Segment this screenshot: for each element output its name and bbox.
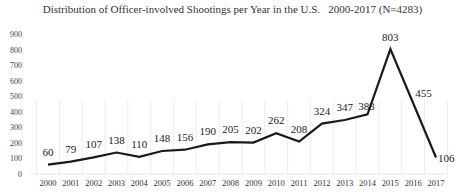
x-tick-label: 2005 (154, 178, 171, 188)
data-label: 383 (358, 100, 375, 112)
data-label: 347 (336, 101, 353, 113)
x-tick-label: 2012 (313, 178, 330, 188)
line-chart: 0100200300400500600700800900200020012002… (0, 0, 465, 192)
x-tick-label: 2017 (428, 178, 445, 188)
data-label: 455 (415, 87, 432, 99)
data-label: 60 (43, 146, 55, 158)
data-label: 110 (131, 138, 148, 150)
data-label: 803 (382, 31, 399, 43)
data-label: 107 (85, 138, 102, 150)
x-tick-label: 2013 (336, 178, 353, 188)
data-label: 148 (154, 132, 171, 144)
data-label: 156 (177, 131, 194, 143)
x-tick-label: 2014 (359, 178, 377, 188)
x-tick-label: 2009 (245, 178, 262, 188)
data-label: 205 (222, 123, 239, 135)
x-tick-label: 2006 (176, 178, 193, 188)
y-tick-label: 800 (10, 46, 22, 55)
x-tick-label: 2015 (382, 178, 399, 188)
x-tick-label: 2002 (85, 178, 102, 188)
x-tick-label: 2010 (268, 178, 285, 188)
data-label: 208 (291, 123, 308, 135)
data-label: 79 (65, 143, 77, 155)
y-tick-label: 700 (10, 61, 22, 70)
data-label: 202 (245, 124, 262, 136)
x-tick-label: 2011 (291, 178, 308, 188)
x-tick-label: 2016 (405, 178, 422, 188)
data-label: 324 (314, 105, 331, 117)
x-tick-label: 2008 (222, 178, 239, 188)
y-tick-label: 300 (10, 123, 22, 132)
x-tick-label: 2000 (40, 178, 57, 188)
y-tick-label: 500 (10, 92, 22, 101)
y-tick-label: 900 (10, 30, 22, 39)
data-label: 138 (108, 134, 125, 146)
y-tick-label: 100 (10, 154, 22, 163)
x-tick-label: 2001 (62, 178, 79, 188)
data-label: 190 (200, 125, 217, 137)
data-label: 106 (438, 152, 455, 164)
x-tick-label: 2004 (131, 178, 149, 188)
data-label: 262 (268, 114, 285, 126)
y-tick-label: 200 (10, 139, 22, 148)
y-tick-label: 0 (18, 170, 22, 179)
x-tick-label: 2003 (108, 178, 125, 188)
x-tick-label: 2007 (199, 178, 216, 188)
y-tick-label: 400 (10, 108, 22, 117)
y-tick-label: 600 (10, 77, 22, 86)
